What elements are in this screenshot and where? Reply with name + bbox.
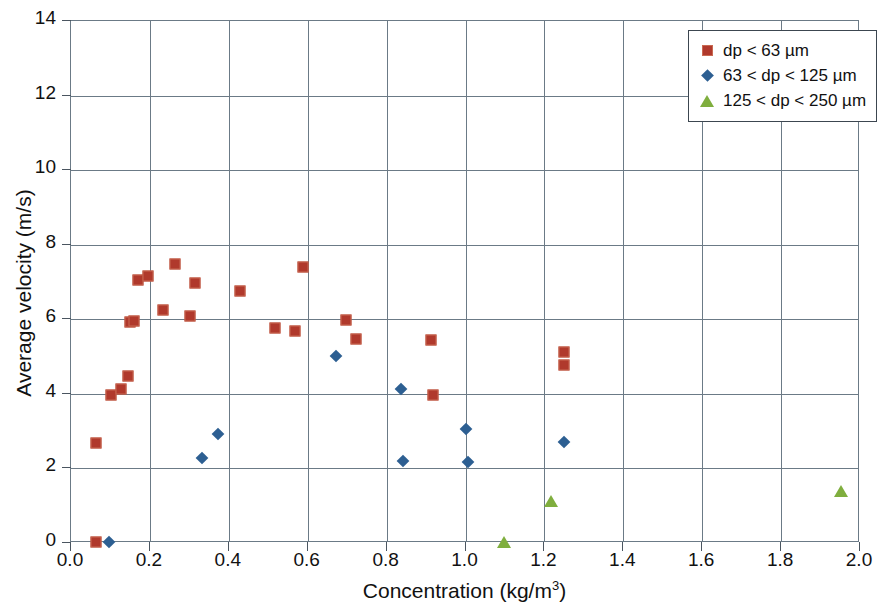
y-tick-mark [62,244,71,245]
x-tick-label-wrap: 1.6 [688,549,714,571]
data-point-series-0 [185,311,196,322]
x-tick-label: 0.6 [293,549,319,570]
x-tick-label-wrap: 1.8 [767,549,793,571]
y-tick-mark [62,169,71,170]
data-point-series-0 [190,277,201,288]
data-point-series-0 [559,346,570,357]
data-point-series-0 [559,359,570,370]
gridline-horizontal [71,394,858,395]
data-point-series-0 [91,438,102,449]
data-point-series-0 [169,259,180,270]
y-tick-label: 12 [35,82,56,103]
legend-item-2[interactable]: 125 < dp < 250 µm [698,88,866,113]
legend-diamond-icon [698,71,716,80]
gridline-horizontal [71,245,858,246]
legend: dp < 63 µm63 < dp < 125 µm125 < dp < 250… [688,30,877,122]
x-tick-label-wrap: 0.4 [215,549,241,571]
legend-item-label: 125 < dp < 250 µm [723,91,866,111]
data-point-series-0 [351,333,362,344]
x-tick-label-wrap: 0.8 [372,549,398,571]
y-tick-label: 10 [35,156,56,177]
data-point-series-2 [834,485,848,497]
x-axis-title: Concentration (kg/m3) [70,578,859,603]
data-point-series-0 [122,371,133,382]
legend-item-1[interactable]: 63 < dp < 125 µm [698,63,866,88]
x-tick-label-wrap: 1.0 [451,549,477,571]
y-tick-mark [62,318,71,319]
data-point-series-0 [341,315,352,326]
scatter-chart: 02468101214 0.00.20.40.60.81.01.21.41.61… [0,0,886,616]
legend-triangle-icon [698,95,716,107]
y-tick-mark [62,467,71,468]
gridline-vertical [387,21,388,541]
legend-item-label: 63 < dp < 125 µm [723,66,857,86]
y-tick-label-wrap: 14 [0,7,56,29]
data-point-series-2 [544,495,558,507]
y-axis-title: Average velocity (m/s) [12,83,36,503]
x-tick-label-wrap: 0.6 [293,549,319,571]
y-tick-mark [62,393,71,394]
data-point-series-0 [270,322,281,333]
y-tick-label: 8 [45,231,56,252]
data-point-series-0 [427,389,438,400]
data-point-series-0 [142,271,153,282]
x-tick-label: 1.6 [688,549,714,570]
data-point-series-0 [297,262,308,273]
gridline-vertical [308,21,309,541]
x-tick-label-wrap: 0.0 [57,549,83,571]
x-tick-label: 0.8 [372,549,398,570]
y-tick-label-wrap: 0 [0,529,56,551]
legend-item-0[interactable]: dp < 63 µm [698,38,866,63]
data-point-series-0 [234,286,245,297]
x-tick-label: 0.0 [57,549,83,570]
data-point-series-0 [158,305,169,316]
data-point-series-0 [289,326,300,337]
legend-item-label: dp < 63 µm [723,41,809,61]
data-point-series-0 [90,537,101,548]
data-point-series-0 [425,334,436,345]
y-tick-label: 14 [35,7,56,28]
x-tick-label: 2.0 [846,549,872,570]
x-axis-title-base: Concentration (kg/m [363,579,552,602]
x-tick-label-wrap: 2.0 [846,549,872,571]
x-tick-label-wrap: 0.2 [136,549,162,571]
y-tick-label: 6 [45,305,56,326]
x-tick-label: 0.2 [136,549,162,570]
x-tick-label: 1.0 [451,549,477,570]
y-tick-label: 2 [45,454,56,475]
y-tick-mark [62,20,71,21]
x-tick-label: 0.4 [215,549,241,570]
legend-square-icon [698,45,716,56]
gridline-horizontal [71,468,858,469]
data-point-series-2 [497,536,511,548]
data-point-series-0 [116,384,127,395]
x-tick-label: 1.2 [530,549,556,570]
gridline-vertical [544,21,545,541]
y-tick-label: 4 [45,380,56,401]
x-tick-label: 1.8 [767,549,793,570]
x-tick-label: 1.4 [609,549,635,570]
gridline-vertical [623,21,624,541]
y-tick-mark [62,95,71,96]
x-tick-label-wrap: 1.4 [609,549,635,571]
x-tick-label-wrap: 1.2 [530,549,556,571]
gridline-horizontal [71,170,858,171]
x-axis-title-tail: ) [559,579,566,602]
y-tick-label: 0 [45,529,56,550]
gridline-vertical [229,21,230,541]
data-point-series-0 [128,316,139,327]
